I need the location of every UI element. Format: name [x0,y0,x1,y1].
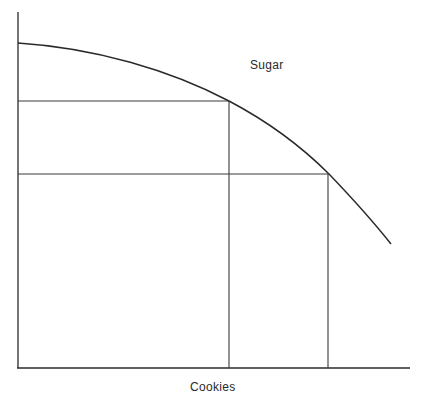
x-axis-label: Cookies [190,380,235,394]
frontier-curve [18,43,391,244]
curve-label-sugar: Sugar [250,58,284,72]
